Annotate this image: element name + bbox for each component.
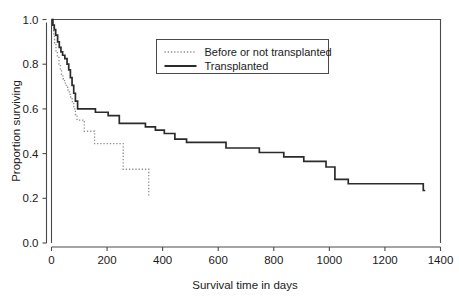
survival-curve-figure: 0.00.20.40.60.81.0 020040060080010001200… <box>0 0 459 299</box>
x-tick-label: 200 <box>97 254 116 266</box>
x-tick-label: 1200 <box>372 254 398 266</box>
legend-label: Transplanted <box>205 60 269 72</box>
chart-legend: Before or not transplantedTransplanted <box>157 40 332 74</box>
y-axis-ticks: 0.00.20.40.60.81.0 <box>23 14 47 250</box>
x-tick-label: 400 <box>153 254 172 266</box>
y-tick-label: 0.8 <box>23 58 39 70</box>
x-tick-label: 600 <box>209 254 228 266</box>
y-tick-label: 1.0 <box>23 14 39 26</box>
x-tick-label: 1400 <box>428 254 454 266</box>
y-tick-label: 0.2 <box>23 192 39 204</box>
y-tick-label: 0.0 <box>23 237 39 249</box>
x-axis-ticks: 0200400600800100012001400 <box>48 247 453 266</box>
y-tick-label: 0.6 <box>23 103 39 115</box>
legend-label: Before or not transplanted <box>205 46 332 58</box>
x-axis-title: Survival time in days <box>192 279 298 291</box>
y-axis-title: Proportion surviving <box>10 80 22 182</box>
y-tick-label: 0.4 <box>23 148 40 160</box>
chart-canvas: 0.00.20.40.60.81.0 020040060080010001200… <box>0 0 459 299</box>
x-tick-label: 800 <box>264 254 283 266</box>
x-tick-label: 0 <box>48 254 54 266</box>
curve-before-or-not-transplanted <box>52 20 150 197</box>
x-tick-label: 1000 <box>317 254 343 266</box>
